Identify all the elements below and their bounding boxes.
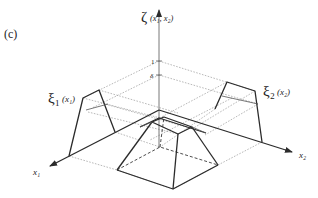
xi2-args: (x₂) (277, 87, 290, 97)
xi2-symbol: ξ₂ (263, 83, 275, 99)
x2-axis-label: x₂ (298, 150, 306, 160)
x1-axis (50, 110, 159, 166)
panel-label: (c) (4, 27, 17, 41)
xi1-symbol: ξ₁ (48, 90, 60, 106)
projection-guides (69, 61, 262, 189)
membership-function-diagram: (c) ζ (x₁, x₂) 1 δ ξ₁ (x₁) ξ₂ (x₂) x₁ x₂ (0, 0, 318, 198)
zeta-symbol: ζ (141, 9, 147, 25)
xi2-trapezoid (215, 82, 262, 142)
xi1-args: (x₁) (62, 94, 75, 104)
xi1-label: ξ₁ (x₁) (48, 90, 75, 106)
diagram-canvas: (c) ζ (x₁, x₂) 1 δ ξ₁ (x₁) ξ₂ (x₂) x₁ x₂ (0, 0, 318, 198)
tick-label-delta: δ (150, 72, 154, 80)
zeta-axis-label: ζ (x₁, x₂) (141, 9, 174, 25)
x1-axis-label: x₁ (32, 167, 40, 177)
x2-axis (159, 110, 292, 152)
zeta-args: (x₁, x₂) (150, 13, 174, 23)
xi2-label: ξ₂ (x₂) (263, 83, 290, 99)
axes (50, 10, 292, 166)
tick-label-1: 1 (151, 58, 155, 66)
zeta-pyramid (117, 117, 218, 189)
xi1-trapezoid (69, 90, 115, 156)
